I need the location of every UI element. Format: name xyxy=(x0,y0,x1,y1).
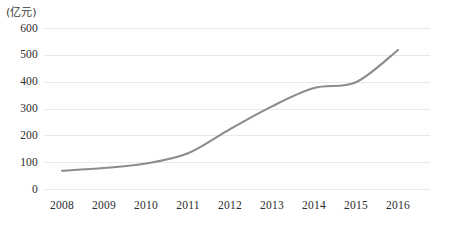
x-tick-label-2014: 2014 xyxy=(294,199,334,211)
x-tick-label-2010: 2010 xyxy=(126,199,166,211)
y-tick-label-400: 400 xyxy=(4,75,38,87)
y-tick-label-0: 0 xyxy=(4,183,38,195)
x-tick-label-2012: 2012 xyxy=(210,199,250,211)
y-tick-label-500: 500 xyxy=(4,48,38,60)
y-tick-label-600: 600 xyxy=(4,22,38,34)
x-tick-label-2009: 2009 xyxy=(84,199,124,211)
chart-plot-area: (亿元) 0100200300400500600 200820092010201… xyxy=(0,0,450,230)
y-tick-label-100: 100 xyxy=(4,156,38,168)
x-tick-label-2011: 2011 xyxy=(168,199,208,211)
chart-canvas xyxy=(0,0,450,230)
x-tick-label-2015: 2015 xyxy=(336,199,376,211)
y-tick-label-200: 200 xyxy=(4,129,38,141)
x-tick-label-2013: 2013 xyxy=(252,199,292,211)
chart-figure: (亿元) 0100200300400500600 200820092010201… xyxy=(0,0,450,230)
x-tick-label-2016: 2016 xyxy=(378,199,418,211)
gridlines xyxy=(44,29,430,190)
x-tick-label-2008: 2008 xyxy=(42,199,82,211)
y-tick-label-300: 300 xyxy=(4,102,38,114)
data-series-line xyxy=(62,50,398,171)
